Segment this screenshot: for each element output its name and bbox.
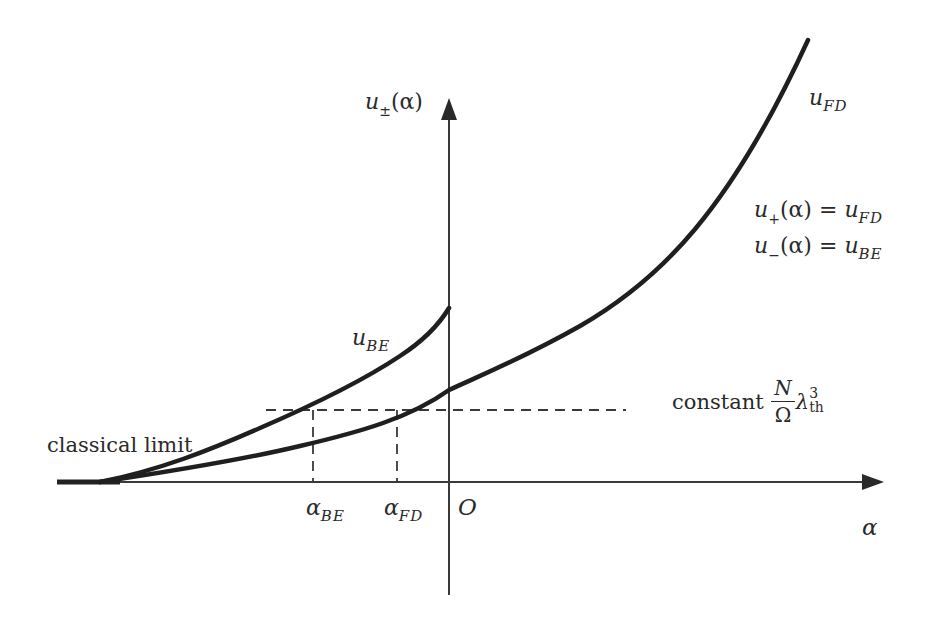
legend2-lhs-base: u bbox=[754, 233, 768, 258]
legend1-lhs-base: u bbox=[754, 197, 768, 222]
y-axis-arrow-icon bbox=[441, 98, 457, 120]
u-fd-base: u bbox=[809, 85, 823, 110]
x-axis-arrow-icon bbox=[862, 474, 884, 490]
lambda-scripts: 3th bbox=[809, 386, 824, 414]
constant-word: constant bbox=[672, 390, 764, 414]
u-fd-sub: FD bbox=[823, 97, 847, 115]
alpha-be-sub: BE bbox=[321, 507, 345, 525]
lambda-sub: th bbox=[809, 400, 824, 414]
curve-label-u-fd: uFD bbox=[809, 85, 848, 115]
legend2-eq: = bbox=[819, 233, 837, 258]
y-axis-label-sub: ± bbox=[379, 103, 391, 119]
alpha-fd-sub: FD bbox=[399, 507, 423, 525]
legend2-lhs-sub: − bbox=[768, 247, 780, 263]
legend1-rhs-sub: FD bbox=[859, 209, 883, 227]
u-be-sub: BE bbox=[366, 337, 390, 355]
alpha-fd-marker-label: αFD bbox=[384, 495, 423, 525]
y-axis-label-arg: (α) bbox=[391, 89, 423, 114]
lambda-sup: 3 bbox=[809, 386, 824, 400]
lambda-symbol: λ bbox=[796, 390, 809, 414]
legend1-lhs-sub: + bbox=[768, 211, 780, 227]
legend1-rhs-base: u bbox=[844, 197, 858, 222]
legend1-arg: (α) bbox=[780, 197, 812, 222]
legend2-rhs-base: u bbox=[844, 233, 858, 258]
legend-line-2: u−(α) = uBE bbox=[754, 233, 883, 263]
constant-label: constant N Ω λ3th bbox=[672, 378, 824, 425]
n-over-omega: N Ω bbox=[771, 378, 795, 425]
curve-label-u-be: uBE bbox=[352, 325, 390, 355]
legend1-eq: = bbox=[819, 197, 837, 222]
origin-label: O bbox=[458, 494, 477, 520]
classical-limit-label: classical limit bbox=[47, 433, 192, 457]
alpha-be-base: α bbox=[306, 495, 321, 520]
legend2-rhs-sub: BE bbox=[859, 245, 883, 263]
u-be-base: u bbox=[352, 325, 366, 350]
frac-numerator: N bbox=[771, 378, 795, 402]
x-axis-label: α bbox=[862, 514, 878, 540]
diagram-canvas bbox=[0, 0, 938, 618]
legend2-arg: (α) bbox=[780, 233, 812, 258]
legend-line-1: u+(α) = uFD bbox=[754, 197, 883, 227]
y-axis-label: u±(α) bbox=[365, 89, 423, 119]
y-axis-label-base: u bbox=[365, 89, 379, 114]
alpha-fd-base: α bbox=[384, 495, 399, 520]
frac-denominator: Ω bbox=[771, 402, 795, 425]
alpha-be-marker-label: αBE bbox=[306, 495, 345, 525]
